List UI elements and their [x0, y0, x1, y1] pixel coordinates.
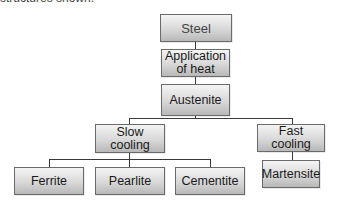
node-martensite-label: Martensite — [262, 168, 320, 181]
node-pearlite-label: Pearlite — [109, 175, 151, 188]
connector-steel-heat — [195, 42, 196, 49]
node-ferrite: Ferrite — [14, 167, 84, 195]
node-heat-label-line2: of heat — [176, 63, 214, 76]
node-fast-cooling-label: Fast cooling — [258, 125, 324, 151]
node-austenite-label: Austenite — [169, 94, 221, 107]
connector-to-cementite — [210, 159, 211, 167]
node-slow-cooling: Slow cooling — [95, 124, 165, 153]
node-ferrite-label: Ferrite — [31, 175, 67, 188]
connector-fast-martensite — [292, 152, 293, 160]
node-pearlite: Pearlite — [95, 167, 165, 195]
node-steel-label: Steel — [181, 22, 211, 35]
node-slow-cooling-label: Slow cooling — [96, 126, 164, 152]
node-cementite-label: Cementite — [182, 175, 239, 188]
node-application-of-heat: Application of heat — [161, 49, 230, 77]
connector-to-ferrite — [49, 159, 50, 167]
caption-text: structures shown. — [0, 0, 94, 5]
connector-cooling-horizontal — [129, 118, 293, 119]
node-steel: Steel — [160, 14, 232, 42]
node-cementite: Cementite — [175, 167, 245, 195]
node-austenite: Austenite — [161, 84, 230, 116]
node-fast-cooling: Fast cooling — [257, 124, 325, 152]
connector-products-horizontal — [49, 159, 211, 160]
connector-to-pearlite — [129, 159, 130, 167]
node-martensite: Martensite — [262, 160, 320, 188]
connector-heat-austenite — [195, 77, 196, 84]
